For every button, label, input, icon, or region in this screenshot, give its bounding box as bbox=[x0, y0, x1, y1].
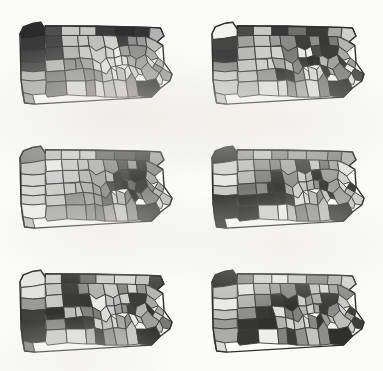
county-region: Washington bbox=[213, 80, 238, 95]
county-region: Clarion bbox=[64, 183, 77, 195]
county-region: Allegheny bbox=[237, 318, 258, 330]
county-region: Philadelphia bbox=[136, 203, 160, 221]
county-region: Warren bbox=[237, 150, 253, 160]
county-region: Cambria bbox=[83, 192, 95, 205]
county-region: Sullivan bbox=[308, 160, 320, 170]
choropleth-map-panel-5: ErieWarrenMcKeanPotterTiogaBradfordSusqu… bbox=[0, 248, 192, 371]
county-region: Warren bbox=[237, 26, 253, 36]
pennsylvania-county-map: ErieWarrenMcKeanPotterTiogaBradfordSusqu… bbox=[10, 13, 182, 111]
county-region: Allegheny bbox=[237, 195, 258, 207]
county-region: Westmoreland bbox=[65, 316, 86, 329]
county-region: Jefferson bbox=[254, 294, 271, 307]
choropleth-map-panel-3: ErieWarrenMcKeanPotterTiogaBradfordSusqu… bbox=[0, 124, 192, 248]
county-region: Jefferson bbox=[63, 170, 80, 183]
county-region: Wyoming bbox=[319, 160, 329, 169]
county-region: Sullivan bbox=[117, 36, 129, 46]
county-region: Washington bbox=[213, 327, 238, 342]
county-region: Westmoreland bbox=[256, 68, 277, 81]
choropleth-map-panel-1: ErieWarrenMcKeanPotterTiogaBradfordSusqu… bbox=[0, 0, 192, 124]
county-region: Warren bbox=[237, 273, 253, 283]
county-region: Adams bbox=[86, 327, 96, 343]
county-region: Venango bbox=[237, 46, 255, 60]
county-region: Butler bbox=[237, 307, 257, 320]
county-region: Cameron bbox=[269, 283, 281, 294]
county-region: Susquehanna bbox=[135, 274, 150, 284]
county-region: Fayette bbox=[45, 205, 67, 221]
county-region: Westmoreland bbox=[65, 192, 86, 205]
county-region: Cambria bbox=[275, 316, 287, 329]
county-region: Washington bbox=[213, 204, 238, 219]
county-region: Jefferson bbox=[254, 170, 271, 183]
county-region: Venango bbox=[237, 294, 255, 308]
county-region: Wyoming bbox=[319, 36, 329, 45]
pennsylvania-county-map: ErieWarrenMcKeanPotterTiogaBradfordSusqu… bbox=[10, 261, 182, 359]
county-region: Fayette bbox=[237, 81, 259, 97]
county-region: Susquehanna bbox=[327, 27, 342, 37]
county-region: Philadelphia bbox=[328, 326, 352, 344]
county-region: Cameron bbox=[269, 35, 281, 46]
county-region: Cumberland bbox=[258, 329, 279, 344]
county-region: Clarion bbox=[255, 307, 268, 319]
county-region: Westmoreland bbox=[256, 316, 277, 329]
county-region: Cumberland bbox=[66, 329, 87, 344]
county-region: Butler bbox=[237, 183, 257, 196]
county-region: Beaver bbox=[21, 195, 45, 205]
county-region: Lawrence bbox=[213, 309, 237, 319]
county-region: Beaver bbox=[213, 71, 237, 81]
county-region: Susquehanna bbox=[135, 27, 150, 37]
county-region: Westmoreland bbox=[256, 192, 277, 205]
county-region: Jefferson bbox=[63, 46, 80, 59]
county-region: Adams bbox=[86, 204, 96, 220]
pennsylvania-county-map: ErieWarrenMcKeanPotterTiogaBradfordSusqu… bbox=[10, 137, 182, 235]
county-region: Fayette bbox=[45, 329, 67, 345]
county-region: McKean bbox=[253, 26, 271, 36]
county-region: Lawrence bbox=[213, 185, 237, 195]
county-region: Sullivan bbox=[308, 284, 320, 294]
county-region: Cameron bbox=[78, 283, 90, 294]
county-region: Adams bbox=[86, 80, 96, 96]
county-region: Sullivan bbox=[117, 284, 129, 294]
county-region: Cameron bbox=[78, 159, 90, 170]
county-region: Forest bbox=[237, 283, 254, 295]
county-region: Clarion bbox=[64, 59, 77, 71]
county-region: Allegheny bbox=[45, 71, 66, 83]
county-region: Mercer bbox=[21, 297, 45, 310]
county-region: Clarion bbox=[255, 59, 268, 71]
county-region: Elk bbox=[253, 35, 270, 46]
county-region: Forest bbox=[237, 35, 254, 47]
county-region: Adams bbox=[277, 204, 287, 220]
county-region: Venango bbox=[45, 294, 63, 308]
county-region: Beaver bbox=[213, 318, 237, 328]
county-region: Elk bbox=[61, 35, 78, 46]
county-region: McKean bbox=[61, 150, 79, 160]
county-region: Fayette bbox=[237, 329, 259, 345]
county-region: Clarion bbox=[64, 307, 77, 319]
pennsylvania-county-map: ErieWarrenMcKeanPotterTiogaBradfordSusqu… bbox=[202, 137, 374, 235]
county-region: Beaver bbox=[21, 318, 45, 328]
county-region: Forest bbox=[45, 283, 62, 295]
county-region: Butler bbox=[45, 183, 65, 196]
county-region: Beaver bbox=[213, 195, 237, 205]
county-region: Mercer bbox=[213, 174, 237, 187]
county-region: Fayette bbox=[45, 81, 67, 97]
county-region: Lawrence bbox=[21, 309, 45, 319]
county-region: Elk bbox=[253, 159, 270, 170]
county-region: Mercer bbox=[213, 297, 237, 310]
county-region: Mercer bbox=[21, 50, 45, 63]
county-region: Warren bbox=[45, 273, 61, 283]
county-region: Mercer bbox=[213, 50, 237, 63]
county-region: Lawrence bbox=[213, 61, 237, 71]
county-region: Lawrence bbox=[21, 185, 45, 195]
county-region: Westmoreland bbox=[65, 68, 86, 81]
map-panel-grid: ErieWarrenMcKeanPotterTiogaBradfordSusqu… bbox=[0, 0, 383, 371]
county-region: McKean bbox=[253, 150, 271, 160]
pennsylvania-county-map: ErieWarrenMcKeanPotterTiogaBradfordSusqu… bbox=[202, 261, 374, 359]
county-region: Washington bbox=[21, 327, 46, 342]
county-region: Butler bbox=[45, 307, 65, 320]
county-region: Butler bbox=[45, 59, 65, 72]
county-region: Allegheny bbox=[45, 195, 66, 207]
county-region: Venango bbox=[237, 170, 255, 184]
county-region: Fayette bbox=[237, 205, 259, 221]
choropleth-map-panel-2: ErieWarrenMcKeanPotterTiogaBradfordSusqu… bbox=[192, 0, 383, 124]
county-region: Jefferson bbox=[63, 294, 80, 307]
